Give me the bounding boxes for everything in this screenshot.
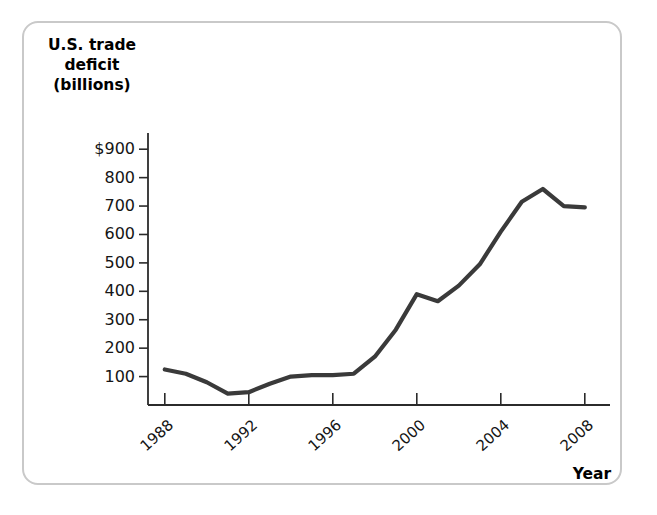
y-axis-tick-label: $900 — [63, 141, 135, 157]
y-axis-tick-label: 500 — [63, 255, 135, 271]
y-axis-tick-label: 600 — [63, 226, 135, 242]
y-axis-tick-label: 700 — [63, 198, 135, 214]
y-axis-tick-label: 200 — [63, 340, 135, 356]
y-axis-tick-label: 400 — [63, 283, 135, 299]
y-axis-tick-label: 300 — [63, 312, 135, 328]
y-axis-tick-label: 800 — [63, 170, 135, 186]
x-axis-title: Year — [573, 467, 611, 483]
chart-figure: U.S. trade deficit (billions) $900800700… — [0, 0, 657, 515]
y-axis-tick-label: 100 — [63, 369, 135, 385]
y-axis-title: U.S. trade deficit (billions) — [36, 36, 148, 95]
